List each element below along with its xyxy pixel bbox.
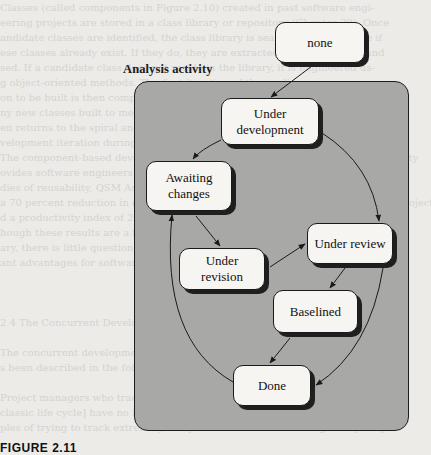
- state-done: Done: [233, 365, 311, 406]
- arrow-under-development-to-under-review: [322, 133, 379, 221]
- arrow-done-to-awaiting-changes: [170, 215, 233, 382]
- arrow-none-to-under-development: [271, 66, 312, 97]
- arrow-under-review-to-baselined: [330, 268, 345, 288]
- state-awaiting-changes: Awaiting changes: [146, 161, 232, 211]
- state-under-revision: Under revision: [179, 248, 265, 290]
- state-label: Under development: [236, 106, 303, 138]
- arrow-baselined-to-done: [270, 338, 290, 363]
- arrow-under-development-to-awaiting-changes: [193, 140, 221, 159]
- state-baselined: Baselined: [273, 290, 358, 333]
- arrow-awaiting-changes-to-under-revision: [196, 216, 220, 246]
- state-label: Awaiting changes: [165, 170, 212, 202]
- state-none: none: [275, 22, 365, 63]
- state-label: Under review: [314, 236, 385, 252]
- state-under-review: Under review: [307, 223, 393, 264]
- state-label: Done: [258, 378, 286, 394]
- arrow-under-revision-to-under-review: [270, 244, 305, 267]
- state-label: Baselined: [290, 304, 341, 320]
- state-label: none: [307, 35, 332, 51]
- figure-caption: FIGURE 2.11: [0, 441, 77, 455]
- state-label: Under revision: [201, 253, 243, 285]
- state-under-development: Under development: [221, 98, 319, 145]
